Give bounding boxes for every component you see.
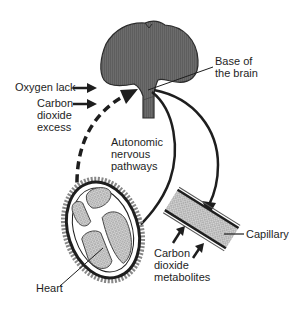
label-oxygen-lack: Oxygen lack	[15, 81, 76, 93]
arrowhead-icon	[87, 83, 97, 93]
brain-heart-capillary-diagram: Oxygen lack Carbon dioxide excess Base o…	[0, 0, 302, 312]
label-capillary: Capillary	[246, 228, 289, 240]
input-arrows	[73, 83, 97, 109]
label-autonomic-line1: Autonomic	[111, 136, 163, 148]
label-metabolites-line1: Carbon	[154, 247, 190, 259]
label-heart: Heart	[36, 282, 63, 294]
arrowhead-icon	[87, 99, 97, 109]
heart-shape	[51, 169, 155, 291]
label-co2-excess-line1: Carbon	[37, 97, 73, 109]
label-autonomic-line2: nervous	[111, 148, 151, 160]
label-base-brain-line1: Base of	[215, 55, 253, 67]
arrowhead-icon	[120, 89, 138, 104]
label-co2-excess-line3: excess	[37, 121, 72, 133]
label-autonomic-line3: pathways	[111, 160, 158, 172]
label-base-brain-line2: the brain	[215, 67, 258, 79]
label-metabolites-line3: metabolites	[154, 271, 211, 283]
label-metabolites-line2: dioxide	[154, 259, 189, 271]
label-co2-excess-line2: dioxide	[37, 109, 72, 121]
